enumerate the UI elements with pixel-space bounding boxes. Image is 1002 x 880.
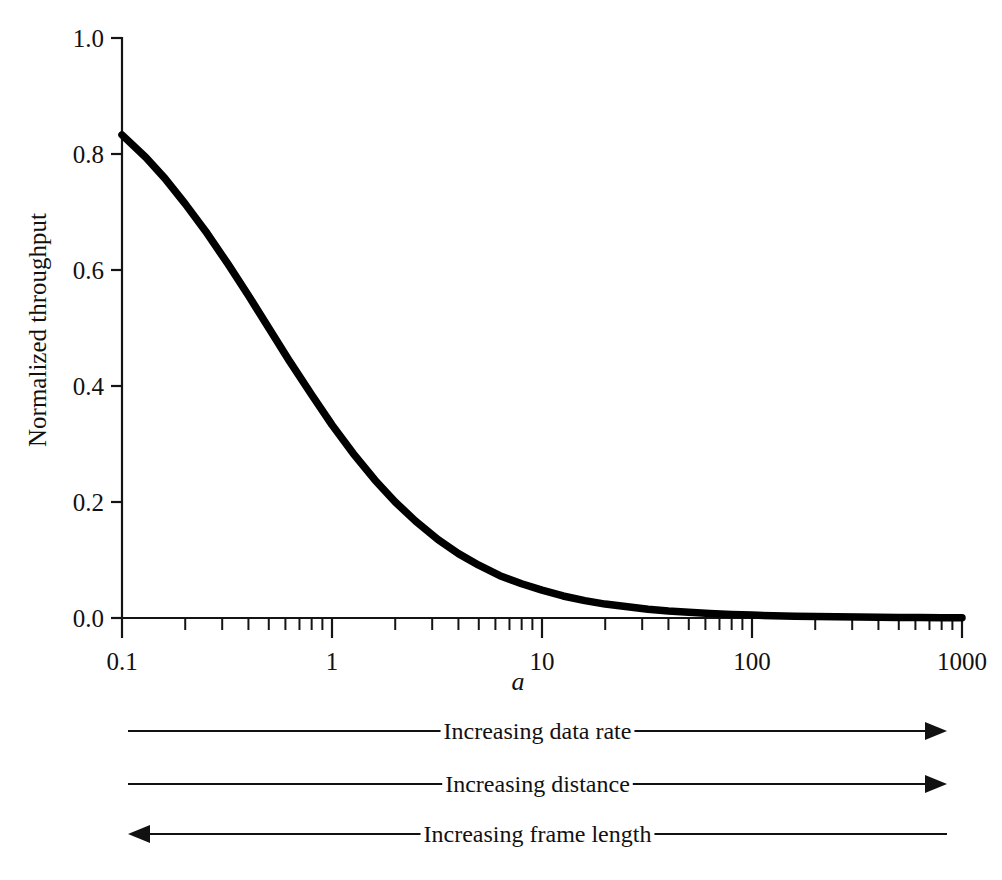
y-tick-label: 0.6 [73, 257, 104, 284]
y-tick-label: 0.0 [73, 605, 104, 632]
x-tick-label: 100 [733, 648, 771, 675]
axes-group [122, 38, 962, 618]
x-tick-label: 0.1 [106, 648, 137, 675]
annotation-arrows-group: Increasing data rateIncreasing distanceI… [128, 718, 947, 847]
annotation-label: Increasing frame length [424, 821, 652, 847]
y-axis-title: Normalized throughput [24, 213, 51, 447]
annotation-arrowhead-left [128, 825, 150, 843]
chart-svg: 0.00.20.40.60.81.0 0.11101001000 Normali… [0, 0, 1002, 880]
annotation-label: Increasing data rate [444, 718, 632, 744]
x-tick-label: 1000 [937, 648, 987, 675]
annotation-arrowhead-right [925, 722, 947, 740]
x-tick-label: 1 [326, 648, 339, 675]
y-tick-label: 0.8 [73, 141, 104, 168]
y-axis-tick-labels: 0.00.20.40.60.81.0 [73, 25, 105, 632]
y-tick-label: 0.2 [73, 489, 104, 516]
y-axis-ticks [111, 38, 122, 618]
y-tick-label: 0.4 [73, 373, 105, 400]
x-axis-tick-labels: 0.11101001000 [106, 648, 987, 675]
series-group [122, 135, 962, 618]
x-axis-title: a [512, 667, 525, 696]
annotation-increasing-data-rate: Increasing data rate [128, 718, 947, 744]
x-tick-label: 10 [530, 648, 555, 675]
throughput-curve [122, 135, 962, 618]
annotation-increasing-distance: Increasing distance [128, 771, 947, 797]
annotation-arrowhead-right [925, 775, 947, 793]
annotation-label: Increasing distance [445, 771, 630, 797]
y-tick-label: 1.0 [73, 25, 104, 52]
annotation-increasing-frame-length: Increasing frame length [128, 821, 947, 847]
chart-figure: 0.00.20.40.60.81.0 0.11101001000 Normali… [0, 0, 1002, 880]
